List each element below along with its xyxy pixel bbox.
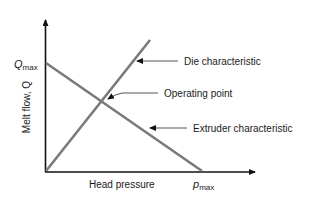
p-max-label: pmax [192, 178, 214, 192]
diagram-canvas: Qmax Melt flow, Q Head pressure pmax Die… [0, 0, 311, 203]
operating-point-label: Operating point [164, 88, 233, 99]
extruder-characteristic-label: Extruder characteristic [193, 123, 292, 134]
q-max-label: Qmax [14, 58, 38, 72]
x-axis-label: Head pressure [89, 179, 155, 190]
extruder-characteristic-line [46, 63, 202, 171]
y-axis-label: Melt flow, Q [21, 81, 32, 133]
die-characteristic-line [46, 40, 150, 171]
operating-point-callout-arrow [108, 93, 158, 99]
die-characteristic-label: Die characteristic [184, 56, 261, 67]
